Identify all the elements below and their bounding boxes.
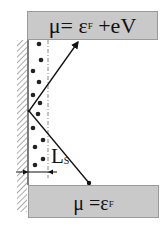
top-reservoir-eq: = ε (61, 13, 88, 39)
bottom-reservoir-sub: F (109, 199, 114, 209)
slip-length-label: LS (51, 146, 69, 167)
profile-apex-dot (28, 110, 31, 113)
bottom-reservoir: μ =εF (28, 185, 159, 218)
bottom-reservoir-eq: =ε (84, 192, 109, 215)
bottom-reservoir-mu: μ (73, 192, 84, 215)
top-reservoir: μ= εF +eV (27, 11, 158, 40)
top-reservoir-rest: +eV (93, 13, 137, 39)
slip-length-main: L (51, 144, 64, 168)
hatched-wall (17, 40, 27, 212)
slip-length-sub: S (64, 155, 70, 166)
dimension-arrow-right-icon (48, 170, 53, 175)
profile-line-upper (29, 42, 78, 111)
top-reservoir-mu: μ (49, 13, 61, 39)
